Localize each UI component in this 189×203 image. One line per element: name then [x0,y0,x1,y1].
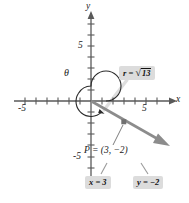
coordinate-plane-figure: x y 5 -5 5 -5 θ P = (3, −2) r = √13 x = … [0,0,189,203]
point-marker-P [121,119,126,124]
radius-callout-radicand: 13 [141,68,152,78]
y-axis-tick-label-negative: -5 [73,152,81,162]
y-value-callout: y = −2 [133,176,163,189]
radius-callout-prefix: r = [123,68,135,78]
point-label-leader-line [113,125,123,145]
radius-callout: r = √13 [119,66,155,80]
y-axis-tick-label-positive: 5 [78,41,83,51]
value-callout-leader-lines [101,163,148,174]
radius-leader-line [104,80,127,110]
graph-canvas [0,0,189,203]
ray-through-point [91,101,170,146]
x-axis-label: x [176,95,180,105]
x-axis-tick-label-positive: 5 [142,104,147,114]
x-value-callout: x = 3 [85,176,111,189]
y-axis-label: y [86,2,90,12]
theta-symbol: θ [64,68,69,78]
theta-arc [76,71,121,116]
point-label-P: P = (3, −2) [84,146,128,156]
x-axis-tick-label-negative: -5 [18,104,26,114]
